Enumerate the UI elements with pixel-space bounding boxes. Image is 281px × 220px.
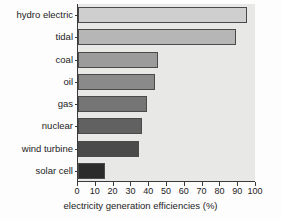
bar-row — [78, 163, 256, 179]
y-axis-tick — [75, 15, 78, 16]
x-axis-tick-label: 100 — [247, 186, 262, 196]
bar-row — [78, 118, 256, 134]
x-axis-tick — [95, 182, 96, 186]
x-axis-tick-label: 50 — [161, 186, 171, 196]
x-axis-tick-label: 90 — [232, 186, 242, 196]
x-axis-tick-label: 70 — [197, 186, 207, 196]
bar-row — [78, 29, 256, 45]
x-axis-tick-label: 0 — [74, 186, 79, 196]
x-axis-tick-label: 30 — [125, 186, 135, 196]
x-axis-tick — [237, 182, 238, 186]
y-axis-tick — [75, 82, 78, 83]
bar-row — [78, 74, 256, 90]
bar-row — [78, 7, 256, 23]
x-axis-tick-label: 40 — [143, 186, 153, 196]
bar-chart: hydro electrictidalcoaloilgasnuclearwind… — [0, 0, 281, 220]
x-axis-tick-label: 10 — [90, 186, 100, 196]
bar — [78, 74, 155, 90]
bar — [78, 118, 142, 134]
x-axis-tick — [166, 182, 167, 186]
y-axis-category-labels: hydro electrictidalcoaloilgasnuclearwind… — [0, 4, 73, 182]
y-axis-label-hydro-electric: hydro electric — [0, 10, 73, 20]
bar-row — [78, 141, 256, 157]
y-axis-label-solar-cell: solar cell — [0, 166, 73, 176]
y-axis-label-coal: coal — [0, 55, 73, 65]
y-axis-tick — [75, 104, 78, 105]
bar — [78, 96, 147, 112]
y-axis-label-tidal: tidal — [0, 32, 73, 42]
bar — [78, 52, 158, 68]
x-axis-tick — [184, 182, 185, 186]
y-axis-tick — [75, 149, 78, 150]
y-axis-tick — [75, 37, 78, 38]
y-axis-tick — [75, 60, 78, 61]
x-axis-tick — [148, 182, 149, 186]
y-axis-label-nuclear: nuclear — [0, 121, 73, 131]
x-axis-tick — [202, 182, 203, 186]
x-axis-tick-label: 60 — [179, 186, 189, 196]
y-axis-tick — [75, 171, 78, 172]
x-axis-tick-label: 80 — [214, 186, 224, 196]
x-axis-tick — [219, 182, 220, 186]
bar-row — [78, 96, 256, 112]
x-axis-tick — [77, 182, 78, 186]
x-axis-title: electricity generation efficiencies (%) — [0, 200, 281, 211]
bar — [78, 29, 236, 45]
bar — [78, 163, 105, 179]
x-axis: 0102030405060708090100 — [77, 182, 257, 198]
bar-row — [78, 52, 256, 68]
y-axis-label-wind-turbine: wind turbine — [0, 144, 73, 154]
plot-area — [77, 4, 255, 182]
x-axis-tick — [130, 182, 131, 186]
bar — [78, 7, 247, 23]
x-axis-tick — [255, 182, 256, 186]
y-axis-tick — [75, 126, 78, 127]
x-axis-tick — [113, 182, 114, 186]
y-axis-label-gas: gas — [0, 99, 73, 109]
x-axis-tick-label: 20 — [108, 186, 118, 196]
bar — [78, 141, 139, 157]
y-axis-label-oil: oil — [0, 77, 73, 87]
